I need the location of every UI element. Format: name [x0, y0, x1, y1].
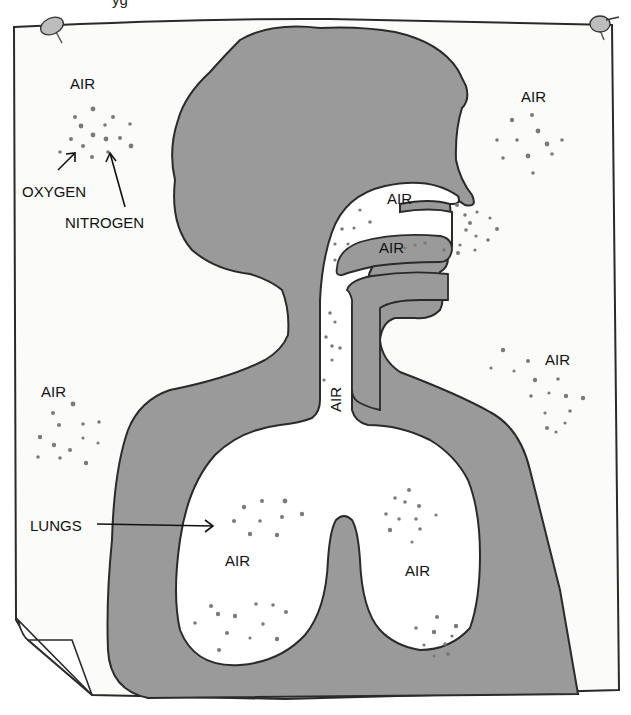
respiratory-illustration: AIR OXYGEN NITROGEN AIR AIR AIR AIR AIR … [0, 0, 631, 715]
label-air-lung-left: AIR [225, 552, 250, 569]
label-air-top-right: AIR [521, 88, 546, 105]
label-air-right-mid: AIR [545, 351, 570, 368]
label-air-lung-right: AIR [405, 562, 430, 579]
label-air-nasal-lower: AIR [379, 239, 404, 256]
label-air-trachea: AIR [327, 387, 344, 412]
label-air-top-left: AIR [70, 75, 95, 92]
label-lungs: LUNGS [30, 517, 82, 534]
label-oxygen: OXYGEN [22, 183, 86, 200]
label-air-left-mid: AIR [41, 383, 66, 400]
label-air-nasal-upper: AIR [387, 190, 412, 207]
label-nitrogen: NITROGEN [65, 214, 144, 231]
